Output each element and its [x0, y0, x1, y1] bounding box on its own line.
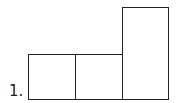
figure-label: 1. — [9, 83, 23, 99]
square-middle — [75, 54, 123, 100]
square-left — [28, 54, 76, 100]
tall-rectangle — [122, 7, 169, 100]
